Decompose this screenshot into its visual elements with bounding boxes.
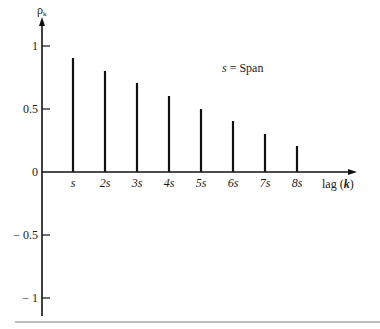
x-axis-arrow-icon <box>348 169 357 175</box>
ytick-label-0.5: 0.5 <box>23 102 38 116</box>
ytick-label-neg-0.5: − 0.5 <box>13 228 38 242</box>
xtick-label: 2s <box>100 176 111 190</box>
xtick-label: 6s <box>228 176 239 190</box>
xtick-label: 8s <box>292 176 303 190</box>
xtick-label: s <box>71 176 76 190</box>
ytick-label-1: 1 <box>32 39 38 53</box>
xtick-label: 7s <box>260 176 271 190</box>
stems <box>73 58 297 172</box>
x-axis-label: lag (k) <box>322 177 354 191</box>
xtick-label: 3s <box>131 176 143 190</box>
y-axis-label: ρk <box>37 3 47 18</box>
y-axis-arrow-icon <box>39 17 45 26</box>
ytick-label-0: 0 <box>32 165 38 179</box>
autocorrelation-chart: 1 0.5 0 − 0.5 − 1 ρk s 2s 3s 4s 5s 6s 7s… <box>0 0 380 329</box>
xtick-label: 4s <box>164 176 175 190</box>
span-annotation: s = Span <box>222 61 263 75</box>
ytick-label-neg-1: − 1 <box>22 291 38 305</box>
xtick-label: 5s <box>196 176 207 190</box>
